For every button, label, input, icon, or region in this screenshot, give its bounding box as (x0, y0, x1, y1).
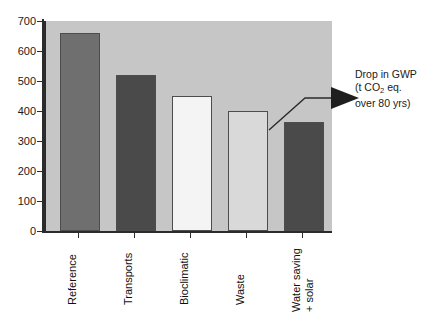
y-tick-mark-500 (37, 81, 43, 82)
y-tick-label-0: 0 (2, 226, 36, 236)
x-tick-mark-0 (78, 232, 79, 238)
annotation-line-3: over 80 yrs) (355, 97, 438, 110)
annotation-line-1: Drop in GWP (355, 68, 438, 81)
y-tick-label-100: 100 (2, 196, 36, 206)
x-tick-mark-2 (190, 232, 191, 238)
annotation-leader-line (255, 60, 365, 140)
y-tick-label-700: 700 (2, 16, 36, 26)
y-tick-mark-100 (37, 201, 43, 202)
x-axis-line (42, 231, 332, 233)
x-tick-mark-3 (246, 232, 247, 238)
y-tick-mark-700 (37, 21, 43, 22)
bar-chart-figure: 700 600 500 400 300 200 100 0 Reference … (0, 0, 438, 316)
y-tick-mark-200 (37, 171, 43, 172)
y-tick-mark-600 (37, 51, 43, 52)
y-tick-mark-400 (37, 111, 43, 112)
y-axis-labels: 700 600 500 400 300 200 100 0 (0, 0, 36, 316)
x-label-transports: Transports (122, 253, 134, 305)
y-tick-label-300: 300 (2, 136, 36, 146)
bar-transports (116, 75, 156, 231)
y-tick-label-400: 400 (2, 106, 36, 116)
y-tick-label-600: 600 (2, 46, 36, 56)
x-label-waste: Waste (234, 274, 246, 305)
x-label-water-saving-solar-line2: + solar (303, 279, 315, 312)
x-label-bioclimatic: Bioclimatic (178, 252, 190, 305)
bar-reference (60, 33, 100, 231)
x-tick-mark-1 (134, 232, 135, 238)
annotation-line-2: (t CO2 eq. (355, 81, 438, 97)
y-tick-mark-300 (37, 141, 43, 142)
y-tick-mark-0 (37, 231, 43, 232)
annotation-line-2-prefix: (t CO (355, 81, 380, 93)
x-label-reference: Reference (66, 254, 78, 305)
y-tick-label-500: 500 (2, 76, 36, 86)
x-tick-mark-4 (302, 232, 303, 238)
annotation-drop-in-gwp: Drop in GWP (t CO2 eq. over 80 yrs) (355, 68, 438, 109)
annotation-line-2-suffix: eq. (384, 81, 402, 93)
x-label-water-saving-solar-line1: Water saving (290, 248, 302, 312)
y-tick-label-200: 200 (2, 166, 36, 176)
bar-bioclimatic (172, 96, 212, 231)
